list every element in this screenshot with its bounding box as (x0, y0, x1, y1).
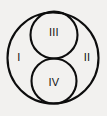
venn-diagram-figure: I II III IV (0, 0, 107, 116)
region-label-iv: IV (33, 77, 75, 88)
region-label-iii: III (33, 27, 75, 38)
region-label-i: I (8, 52, 30, 63)
region-label-ii: II (76, 52, 98, 63)
